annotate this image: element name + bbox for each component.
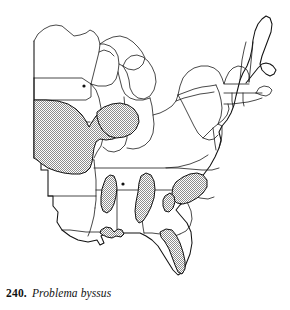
border-ohio-east <box>153 95 178 115</box>
border-virginia-north <box>178 95 218 140</box>
distribution-map <box>0 0 290 282</box>
range-interior-south-carolina <box>163 193 175 212</box>
border-upper-michigan <box>100 36 145 70</box>
figure-number: 240. <box>6 287 27 299</box>
range-gulf-coast-strip <box>100 227 124 238</box>
border-cape-cod <box>256 86 272 96</box>
border-maryland-delmarva <box>203 124 222 148</box>
figure-caption: 240.Problema byssus <box>6 286 284 300</box>
distribution-figure <box>0 0 290 282</box>
border-wisconsin <box>91 44 119 86</box>
figure-species-name: Problema byssus <box>32 287 111 299</box>
border-louisiana-mississippi <box>62 230 101 232</box>
range-carolina-coast <box>172 173 207 204</box>
range-florida-peninsula <box>160 229 185 274</box>
border-new-jersey <box>218 104 229 124</box>
border-arkansas-east <box>94 160 96 208</box>
border-kentucky-tennessee <box>94 155 208 168</box>
locality-dot-iowa <box>82 84 85 87</box>
border-lake-michigan-shore <box>118 72 150 100</box>
border-minnesota <box>34 25 100 84</box>
border-lower-michigan <box>123 55 156 99</box>
range-shading-group <box>34 100 207 274</box>
range-alabama-georgia <box>135 173 155 223</box>
border-pennsylvania-east <box>216 85 222 124</box>
range-central-mississippi <box>101 175 117 213</box>
border-pennsylvania <box>176 85 216 101</box>
locality-dot-alabama <box>121 182 124 185</box>
border-virginia-carolina <box>166 168 219 170</box>
border-iowa <box>34 78 91 100</box>
